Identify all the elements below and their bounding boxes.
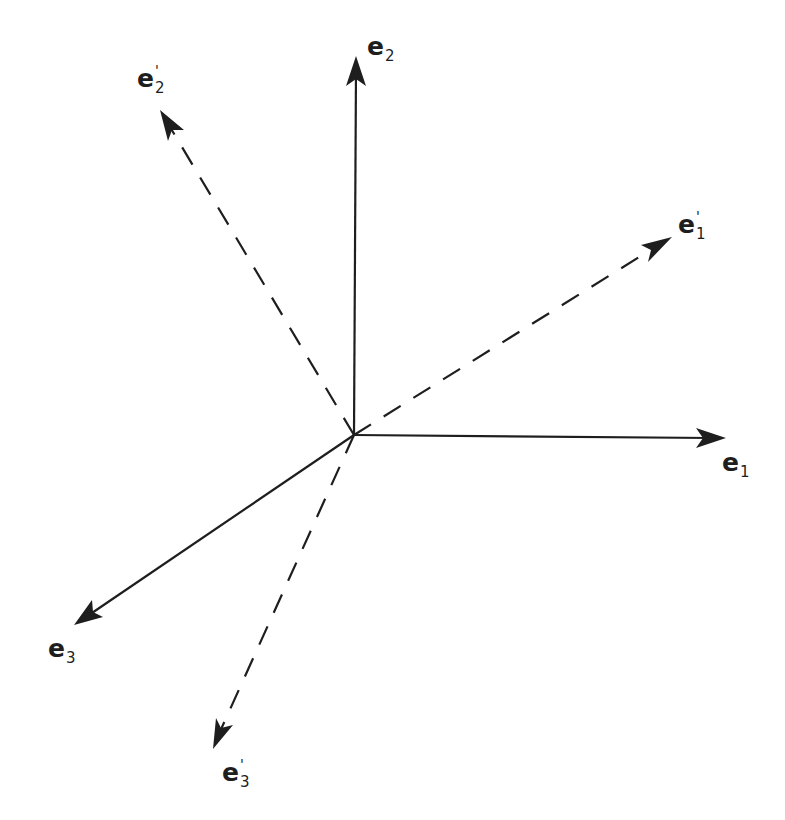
label-e1-prime-subscript: 1 xyxy=(696,225,706,243)
label-e1-prime: e1' xyxy=(678,212,706,237)
vector-e1-shaft xyxy=(354,435,712,438)
label-e2-prime-subscript: 2 xyxy=(155,79,165,97)
vector-e2-shaft xyxy=(354,70,356,435)
label-e3-prime: e3' xyxy=(222,760,250,785)
label-e3-prime-subscript: 3 xyxy=(240,773,250,791)
label-e1-prime-mark: ' xyxy=(696,209,700,223)
vector-e2 xyxy=(346,56,366,435)
vector-e2-prime-shaft xyxy=(167,122,354,435)
vector-e3-shaft xyxy=(86,435,354,617)
vector-e1-prime-shaft xyxy=(354,244,660,435)
label-e1: e1 xyxy=(722,450,750,475)
label-e2-subscript: 2 xyxy=(385,47,395,65)
arrowhead-icon xyxy=(160,110,184,141)
label-e1-subscript: 1 xyxy=(740,463,750,481)
label-e2-base: e xyxy=(367,32,384,61)
label-e2-prime-mark: ' xyxy=(155,63,159,77)
label-e3-prime-base: e xyxy=(222,758,239,787)
label-e3: e3 xyxy=(48,636,76,661)
vector-e2-prime xyxy=(160,110,354,435)
label-e2-prime-base: e xyxy=(137,64,154,93)
coordinate-frames-diagram xyxy=(0,0,785,820)
vector-e1 xyxy=(354,428,726,448)
arrowhead-icon xyxy=(641,237,672,262)
label-e3-subscript: 3 xyxy=(66,649,76,667)
label-e1-prime-base: e xyxy=(678,210,695,239)
label-e2: e2 xyxy=(367,34,395,59)
label-e2-prime: e2' xyxy=(137,66,165,91)
label-e1-base: e xyxy=(722,448,739,477)
vector-e1-prime xyxy=(354,237,672,435)
label-e3-prime-mark: ' xyxy=(240,757,244,771)
vector-e3 xyxy=(74,435,354,625)
arrowhead-icon xyxy=(74,600,103,625)
label-e3-base: e xyxy=(48,634,65,663)
